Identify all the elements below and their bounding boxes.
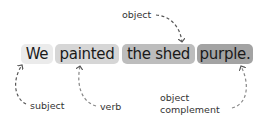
- label-object-complement-2: complement: [160, 104, 220, 116]
- word-object: the shed: [122, 44, 195, 64]
- word-subject: We: [21, 44, 53, 64]
- object-arrow: [156, 15, 182, 42]
- word-verb: painted: [55, 44, 119, 64]
- verb-arrow: [79, 66, 96, 106]
- word-object-complement: purple.: [197, 44, 253, 64]
- label-verb: verb: [100, 101, 121, 113]
- label-object: object: [122, 9, 151, 21]
- label-object-complement-1: object: [160, 92, 189, 104]
- label-subject: subject: [30, 100, 64, 112]
- subject-arrow: [16, 65, 26, 104]
- object-complement-arrow: [232, 66, 246, 108]
